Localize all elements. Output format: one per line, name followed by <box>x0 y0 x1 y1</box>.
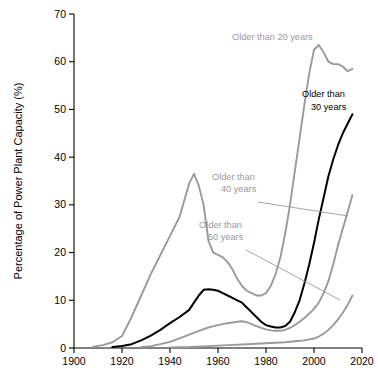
x-tick-label: 1960 <box>206 355 230 367</box>
y-tick-label: 10 <box>54 294 66 306</box>
x-tick-label: 1940 <box>158 355 182 367</box>
y-axis-ticks: 010203040506070 <box>54 8 74 354</box>
annotation-older-than-20-line1: Older than 20 years <box>232 32 313 42</box>
annotation-older-than-40-line1: Older than <box>212 172 255 182</box>
annotation-older-than-50-line2: 50 years <box>208 232 244 242</box>
y-tick-label: 20 <box>54 246 66 258</box>
x-tick-label: 1900 <box>62 355 86 367</box>
x-axis-ticks: 1900192019401960198020002020 <box>62 348 374 367</box>
annotation-older-than-50-line1: Older than <box>199 220 242 230</box>
x-tick-label: 2020 <box>350 355 374 367</box>
series-line <box>112 114 352 347</box>
series-line <box>141 195 352 347</box>
y-tick-label: 40 <box>54 151 66 163</box>
annotation-older-than-30-line1: Older than <box>302 89 345 99</box>
y-tick-label: 30 <box>54 198 66 210</box>
x-tick-label: 1920 <box>110 355 134 367</box>
x-tick-label: 2000 <box>302 355 326 367</box>
y-tick-label: 50 <box>54 103 66 115</box>
annotation-older-than-40-line2: 40 years <box>221 184 257 194</box>
y-tick-label: 0 <box>60 342 66 354</box>
annotation-older-than-30-line2: 30 years <box>311 102 347 112</box>
y-axis-title: Percentage of Power Plant Capacity (%) <box>12 83 24 280</box>
y-tick-label: 60 <box>54 55 66 67</box>
y-tick-label: 70 <box>54 8 66 20</box>
annotation-leaders <box>246 202 348 300</box>
line-chart: 010203040506070 190019201940196019802000… <box>0 0 378 387</box>
x-tick-label: 1980 <box>254 355 278 367</box>
chart-container: 010203040506070 190019201940196019802000… <box>0 0 378 387</box>
